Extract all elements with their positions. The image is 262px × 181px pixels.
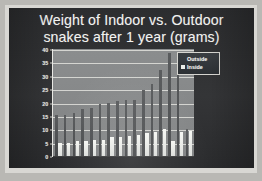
y-tick-label-0: 0 — [45, 154, 48, 160]
bar-inside — [93, 140, 96, 156]
legend-label-outside: Outside — [187, 56, 207, 62]
bar-group — [106, 49, 115, 156]
legend-swatch-outside-icon — [181, 57, 185, 61]
bar-group — [97, 49, 106, 156]
x-axis-baseline — [53, 156, 194, 157]
bar-inside — [110, 137, 113, 156]
bar-group — [115, 49, 124, 156]
bar-inside — [163, 129, 166, 156]
bar-inside — [171, 141, 174, 156]
bar-series-container — [54, 49, 194, 156]
bar-group — [124, 49, 133, 156]
slide-title: Weight of Indoor vs. Outdoor snakes afte… — [9, 12, 254, 45]
chart-legend: Outside Inside — [177, 52, 220, 75]
legend-item-inside: Inside — [181, 63, 216, 71]
y-tick-label-40: 40 — [42, 47, 48, 53]
bar-group — [141, 49, 150, 156]
bar-inside — [154, 132, 157, 156]
bar-inside — [84, 141, 87, 156]
bar-group — [132, 49, 141, 156]
y-tick-label-35: 35 — [42, 60, 48, 66]
bar-group — [89, 49, 98, 156]
bar-inside — [128, 136, 131, 156]
bar-group — [63, 49, 72, 156]
bar-inside — [119, 137, 122, 156]
y-tick-label-10: 10 — [42, 127, 48, 133]
y-tick-label-15: 15 — [42, 114, 48, 120]
legend-item-outside: Outside — [181, 55, 216, 63]
legend-label-inside: Inside — [187, 64, 203, 70]
photo-frame: Weight of Indoor vs. Outdoor snakes afte… — [0, 0, 262, 181]
title-line-2: snakes after 1 year (grams) — [9, 29, 254, 46]
bar-inside — [189, 131, 192, 156]
bar-group — [158, 49, 167, 156]
legend-swatch-inside-icon — [181, 65, 185, 69]
bar-inside — [76, 141, 79, 156]
bar-group — [150, 49, 159, 156]
presentation-slide: Weight of Indoor vs. Outdoor snakes afte… — [9, 8, 254, 168]
y-tick-label-30: 30 — [42, 74, 48, 80]
bar-group — [71, 49, 80, 156]
plot-area — [52, 49, 194, 157]
bar-group — [54, 49, 63, 156]
y-tick-label-25: 25 — [42, 87, 48, 93]
bar-inside — [58, 143, 61, 156]
bar-inside — [145, 133, 148, 156]
title-line-1: Weight of Indoor vs. Outdoor — [9, 12, 254, 29]
bar-group — [167, 49, 176, 156]
y-tick-label-20: 20 — [42, 101, 48, 107]
bar-inside — [102, 140, 105, 156]
bar-inside — [180, 132, 183, 156]
bar-inside — [67, 143, 70, 156]
y-tick-label-5: 5 — [45, 141, 48, 147]
bar-inside — [137, 135, 140, 156]
y-axis: 0510152025303540 — [31, 49, 50, 157]
bar-group — [80, 49, 89, 156]
